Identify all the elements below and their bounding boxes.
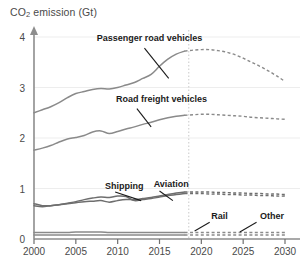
series-projection-passenger-road-vehicles: [185, 50, 285, 82]
x-tick-label-2005: 2005: [65, 246, 88, 257]
x-tick-label-2000: 2000: [23, 246, 46, 257]
series-history-aviation: [34, 192, 185, 206]
x-axis-tick-labels: 2000200520102015202020252030: [23, 246, 297, 257]
series-label-passenger-road-vehicles: Passenger road vehicles: [97, 33, 203, 43]
series-label-shipping: Shipping: [105, 181, 144, 191]
series-projection-shipping: [185, 194, 285, 197]
x-tick-label-2030: 2030: [274, 246, 297, 257]
series-label-aviation: Aviation: [154, 179, 189, 189]
leader-line-passenger-road-vehicles: [144, 48, 168, 78]
series-label-other: Other: [260, 211, 285, 221]
series-history-road-freight-vehicles: [34, 115, 185, 150]
y-tick-label-0: 0: [19, 234, 25, 245]
chart-plot-area: Passenger road vehiclesRoad freight vehi…: [0, 0, 304, 265]
x-tick-label-2010: 2010: [107, 246, 130, 257]
y-axis-tick-labels: 01234: [19, 32, 25, 245]
series-label-rail: Rail: [211, 211, 228, 221]
y-tick-label-1: 1: [19, 184, 25, 195]
y-tick-label-2: 2: [19, 133, 25, 144]
series-label-road-freight-vehicles: Road freight vehicles: [116, 94, 207, 104]
y-axis-arrow-icon: [30, 26, 38, 35]
leader-line-rail: [195, 222, 210, 231]
y-tick-label-3: 3: [19, 83, 25, 94]
series-lines-group: [34, 50, 285, 235]
series-projection-road-freight-vehicles: [185, 114, 285, 119]
series-history-rail: [34, 232, 185, 233]
y-tick-label-4: 4: [19, 32, 25, 43]
x-tick-label-2015: 2015: [148, 246, 171, 257]
chart-container: CO2 emission (Gt) Passenger road vehicle…: [0, 0, 304, 265]
axes-group: [30, 26, 300, 239]
leader-lines-group: [115, 48, 256, 232]
x-tick-label-2025: 2025: [232, 246, 255, 257]
leader-line-other: [240, 222, 257, 232]
x-tick-label-2020: 2020: [190, 246, 213, 257]
